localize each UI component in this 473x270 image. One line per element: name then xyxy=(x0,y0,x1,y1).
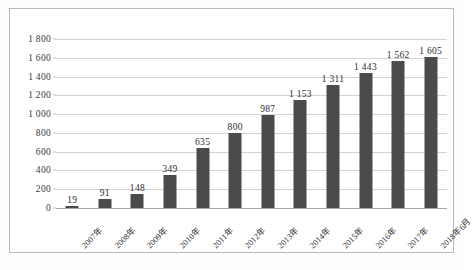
bar-slot: 148 xyxy=(121,39,154,208)
bar-slot: 1 605 xyxy=(414,39,447,208)
y-tick-label: 0 xyxy=(46,203,51,213)
bar-value-label: 349 xyxy=(162,164,177,174)
chart-frame: 1 8001 6001 4001 2001 0008006004002000 1… xyxy=(9,8,454,253)
y-tick-label: 1 400 xyxy=(28,72,51,82)
y-tick-label: 1 600 xyxy=(28,53,51,63)
bar xyxy=(326,85,339,208)
bar xyxy=(392,61,405,208)
x-tick-label-wrapper: 2009年 xyxy=(143,242,151,250)
bar-slot: 91 xyxy=(89,39,122,208)
y-tick-label: 1 200 xyxy=(28,90,51,100)
x-tick-label-wrapper: 2018年6月 xyxy=(437,242,445,250)
x-tick-label: 2007年 xyxy=(78,224,105,251)
x-tick-label-wrapper: 2016年 xyxy=(372,242,380,250)
x-tick-label: 2015年 xyxy=(339,224,366,251)
bar-value-label: 987 xyxy=(260,104,275,114)
bar-slot: 1 311 xyxy=(317,39,350,208)
bar-slot: 635 xyxy=(186,39,219,208)
y-tick-label: 1 800 xyxy=(28,34,51,44)
x-tick-label-wrapper: 2010年 xyxy=(176,242,184,250)
bar-slot: 1 562 xyxy=(382,39,415,208)
bar-series: 19911483496358009871 1531 3111 4431 5621… xyxy=(56,39,447,208)
x-tick-label-wrapper: 2008年 xyxy=(111,242,119,250)
x-tick-label: 2012年 xyxy=(241,224,268,251)
plot-area: 1 8001 6001 4001 2001 0008006004002000 1… xyxy=(56,39,447,208)
x-tick-label: 2016年 xyxy=(372,224,399,251)
bar-value-label: 1 562 xyxy=(387,50,410,60)
bar-slot: 800 xyxy=(219,39,252,208)
bar-value-label: 635 xyxy=(195,137,210,147)
bar-value-label: 800 xyxy=(228,122,243,132)
x-tick-label: 2013年 xyxy=(274,224,301,251)
x-tick-label-wrapper: 2017年 xyxy=(404,242,412,250)
bar-value-label: 1 605 xyxy=(419,46,442,56)
bar-slot: 1 443 xyxy=(349,39,382,208)
bar-slot: 1 153 xyxy=(284,39,317,208)
bar xyxy=(98,199,111,208)
bar-value-label: 91 xyxy=(100,188,110,198)
bar xyxy=(164,175,177,208)
x-tick-label: 2008年 xyxy=(111,224,138,251)
x-tick-label: 2014年 xyxy=(306,224,333,251)
bar-value-label: 1 311 xyxy=(322,74,345,84)
bar-slot: 19 xyxy=(56,39,89,208)
bar xyxy=(294,100,307,208)
y-tick-label: 800 xyxy=(36,128,51,138)
bar xyxy=(261,115,274,208)
x-tick-label: 2009年 xyxy=(143,224,170,251)
x-tick-label: 2010年 xyxy=(176,224,203,251)
bar-slot: 349 xyxy=(154,39,187,208)
bar xyxy=(424,57,437,208)
x-tick-label-wrapper: 2014年 xyxy=(306,242,314,250)
bar xyxy=(359,73,372,208)
x-tick-label-wrapper: 2012年 xyxy=(241,242,249,250)
bar-value-label: 1 443 xyxy=(354,62,377,72)
x-tick-label: 2017年 xyxy=(404,224,431,251)
bar xyxy=(229,133,242,208)
x-tick-label-wrapper: 2007年 xyxy=(78,242,86,250)
x-tick-label: 2018年6月 xyxy=(437,214,473,250)
bar xyxy=(131,194,144,208)
bar-value-label: 19 xyxy=(67,195,77,205)
bar xyxy=(196,148,209,208)
y-tick-label: 600 xyxy=(36,147,51,157)
x-axis-baseline xyxy=(56,208,447,209)
bar-value-label: 148 xyxy=(130,183,145,193)
y-tick-label: 1 000 xyxy=(28,109,51,119)
y-tick-label: 200 xyxy=(36,184,51,194)
x-tick-label-wrapper: 2011年 xyxy=(209,242,217,250)
x-tick-label: 2011年 xyxy=(209,224,236,251)
x-tick-label-wrapper: 2015年 xyxy=(339,242,347,250)
bar-slot: 987 xyxy=(252,39,285,208)
x-tick-label-wrapper: 2013年 xyxy=(274,242,282,250)
y-tick-label: 400 xyxy=(36,165,51,175)
bar xyxy=(66,206,79,208)
bar-value-label: 1 153 xyxy=(289,89,312,99)
